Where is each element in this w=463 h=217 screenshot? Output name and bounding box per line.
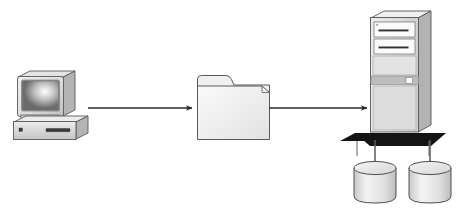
folder-body[interactable] [198,86,270,140]
database-top [409,161,451,174]
server-platform-top [340,133,446,141]
drive-bay-lower-slot [379,47,409,49]
desktop-computer-icon[interactable] [14,71,89,140]
database-cylinder-right[interactable] [409,161,451,203]
drive-bay-upper-slot [379,30,409,32]
server-mid-panel [373,56,416,75]
diagram-canvas [0,0,463,217]
server-tower-icon[interactable] [340,11,446,156]
monitor-screen[interactable] [23,81,59,110]
power-indicator-light [19,128,22,131]
diagram-svg [0,0,463,217]
file-folder-icon[interactable] [198,76,270,140]
drive-bay-upper-led [376,24,378,26]
server-side-face [418,11,431,132]
database-top [354,161,396,174]
database-cylinder-left[interactable] [354,161,396,203]
server-lower-panel [373,86,416,130]
monitor-side-face [63,71,75,116]
power-button[interactable] [406,78,413,84]
floppy-drive-slot[interactable] [46,129,70,132]
